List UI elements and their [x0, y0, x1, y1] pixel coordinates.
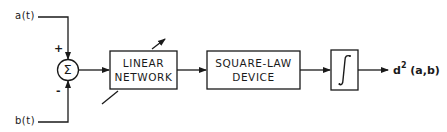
input-b-wire [38, 81, 68, 122]
input-a-wire [38, 17, 68, 59]
linear-network-label: LINEAR NETWORK [110, 51, 177, 89]
linear-network-line2: NETWORK [115, 70, 173, 84]
minus-sign: - [56, 84, 61, 97]
output-exponent: 2 [401, 61, 407, 70]
plus-sign: + [54, 42, 63, 55]
output-label: d2 (a,b) [393, 62, 440, 77]
summer-symbol: Σ [58, 60, 78, 80]
adjustable-arrow [102, 91, 118, 104]
output-base: d [393, 64, 401, 77]
linear-network-line1: LINEAR [123, 56, 165, 70]
square-law-label: SQUARE-LAW DEVICE [207, 51, 300, 89]
input-b-label: b(t) [15, 115, 35, 126]
output-args: (a,b) [410, 64, 440, 77]
integral-icon [339, 56, 350, 85]
square-law-line2: DEVICE [232, 70, 275, 84]
input-a-label: a(t) [15, 10, 35, 21]
square-law-line1: SQUARE-LAW [215, 56, 292, 70]
